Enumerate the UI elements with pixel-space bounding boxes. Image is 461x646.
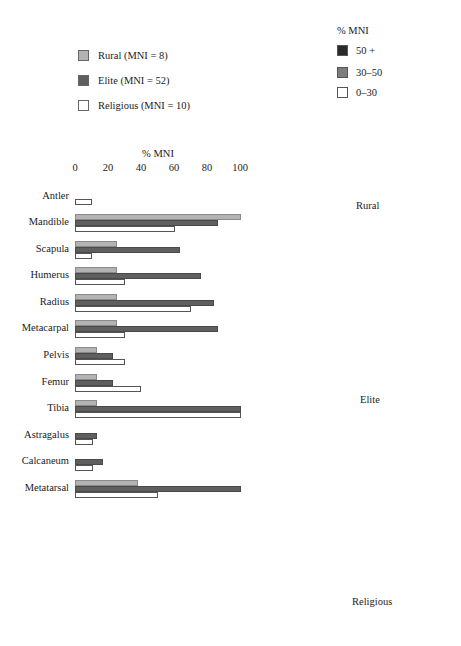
skeleton-swatch-0-30: [337, 87, 348, 98]
axis-tick: 80: [202, 162, 213, 173]
legend-swatch-rural: [78, 50, 89, 61]
panel-label-elite: Elite: [360, 394, 380, 405]
category-label: Metatarsal: [25, 482, 69, 493]
bar-religious: [75, 439, 93, 445]
bar-religious: [75, 492, 158, 498]
panel-label-religious: Religious: [352, 596, 392, 607]
skeleton-legend-title: % MNI: [337, 25, 369, 36]
bar-religious: [75, 465, 93, 471]
legend-rural: Rural (MNI = 8): [78, 48, 168, 62]
bar-religious: [75, 253, 92, 259]
axis-tick: 100: [232, 162, 248, 173]
bar-religious: [75, 386, 141, 392]
skeleton-swatch-30-50: [337, 67, 348, 78]
legend-swatch-religious: [78, 100, 89, 111]
axis-tick: 20: [103, 162, 114, 173]
axis-tick: 60: [169, 162, 180, 173]
category-label: Scapula: [36, 243, 69, 254]
category-label: Radius: [40, 296, 69, 307]
category-label: Humerus: [31, 269, 70, 280]
bar-religious: [75, 412, 241, 418]
axis-tick: 0: [72, 162, 77, 173]
category-label: Antler: [42, 190, 69, 201]
legend-elite: Elite (MNI = 52): [78, 73, 170, 87]
category-label: Mandible: [29, 216, 69, 227]
category-label: Femur: [42, 376, 69, 387]
bar-religious: [75, 199, 92, 205]
skeleton-legend-label: 50 +: [356, 45, 375, 56]
category-label: Tibia: [47, 402, 69, 413]
category-label: Calcaneum: [22, 455, 69, 466]
bar-religious: [75, 226, 175, 232]
legend-label-elite: Elite (MNI = 52): [98, 75, 170, 86]
skeleton-legend-0-30: 0–30: [337, 85, 377, 99]
axis-title: % MNI: [142, 148, 174, 159]
category-label: Metacarpal: [22, 322, 69, 333]
skeleton-legend-label: 30–50: [356, 67, 382, 78]
legend-label-religious: Religious (MNI = 10): [98, 100, 190, 111]
category-label: Pelvis: [43, 349, 69, 360]
legend-swatch-elite: [78, 75, 89, 86]
panel-label-rural: Rural: [356, 200, 379, 211]
bar-religious: [75, 306, 191, 312]
legend-religious: Religious (MNI = 10): [78, 98, 190, 112]
axis-tick: 40: [136, 162, 147, 173]
skeleton-legend-50plus: 50 +: [337, 43, 375, 57]
skeleton-swatch-50plus: [337, 45, 348, 56]
bar-religious: [75, 359, 125, 365]
legend-label-rural: Rural (MNI = 8): [98, 50, 168, 61]
bar-religious: [75, 332, 125, 338]
skeleton-legend-30-50: 30–50: [337, 65, 382, 79]
skeleton-legend-label: 0–30: [356, 87, 377, 98]
category-label: Astragalus: [24, 429, 69, 440]
bar-religious: [75, 279, 125, 285]
